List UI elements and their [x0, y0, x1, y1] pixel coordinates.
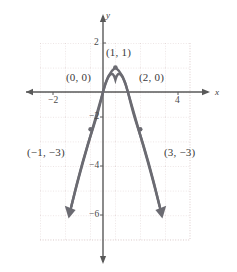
x-axis-label: x	[215, 88, 219, 97]
y-tick-label-2: 2	[94, 38, 99, 48]
point-label-left: (−1, −3)	[27, 147, 65, 158]
parabola-graph-figure: y x −2 4 2 −2 −4 −6 (1, 1) (0, 0) (2, 0)…	[0, 0, 237, 272]
grid-lines	[40, 43, 190, 240]
point-label-origin: (0, 0)	[66, 72, 91, 83]
point-label-vertex: (1, 1)	[106, 47, 131, 58]
x-tick-label-4: 4	[175, 96, 180, 106]
y-tick-label-neg4: −4	[89, 161, 100, 171]
x-tick-label-neg2: −2	[48, 96, 59, 106]
y-axis-label: y	[106, 11, 110, 20]
y-tick-label-neg6: −6	[89, 210, 100, 220]
point-label-right-intercept: (2, 0)	[139, 72, 164, 83]
y-tick-label-neg2: −2	[89, 112, 100, 122]
plot-canvas	[0, 0, 237, 272]
point-label-right: (3, −3)	[164, 147, 195, 158]
